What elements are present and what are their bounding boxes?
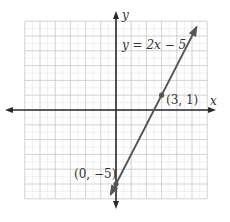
y-axis-label: y	[121, 8, 129, 22]
point-marker	[159, 93, 164, 98]
x-axis-left-arrow-icon	[5, 107, 13, 113]
line-arrow-up-icon	[189, 25, 198, 37]
equation-label: y = 2x − 5	[121, 38, 186, 52]
y-axis-down-arrow-icon	[113, 201, 119, 209]
point-label-3-1: (3, 1)	[166, 93, 198, 107]
point-marker	[113, 181, 118, 186]
y-axis-up-arrow-icon	[113, 11, 119, 19]
coordinate-plane: y x y = 2x − 5 (3, 1) (0, −5)	[0, 0, 230, 222]
x-axis-label: x	[210, 94, 217, 108]
point-label-0-neg5: (0, −5)	[74, 167, 116, 181]
